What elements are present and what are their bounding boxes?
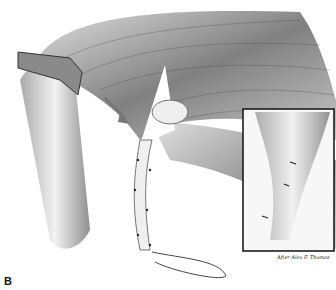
illustration-svg bbox=[0, 0, 336, 290]
medical-illustration: After Alex F. Thomas B bbox=[0, 0, 336, 290]
suture-loop bbox=[152, 252, 226, 278]
artist-signature: After Alex F. Thomas bbox=[277, 254, 330, 260]
tubularized-tendon bbox=[134, 140, 152, 250]
panel-label: B bbox=[4, 275, 12, 287]
left-muscle bbox=[20, 63, 90, 249]
graft-bundle bbox=[152, 100, 188, 124]
